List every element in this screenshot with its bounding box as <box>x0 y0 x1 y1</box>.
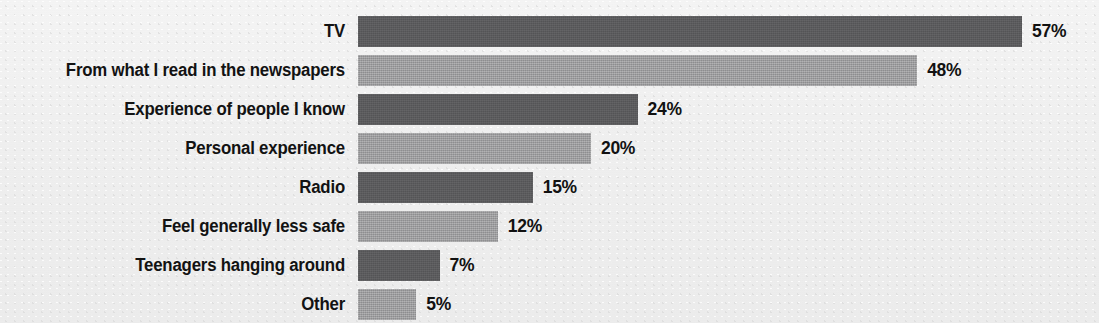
bar-value-label: 20% <box>601 133 635 164</box>
category-label: Radio <box>14 172 345 203</box>
bar <box>358 172 533 203</box>
bar-value-label: 24% <box>648 94 682 125</box>
bar <box>358 289 416 320</box>
category-label: Feel generally less safe <box>14 211 345 242</box>
bar <box>358 250 440 281</box>
chart-row: Other5% <box>0 289 1099 320</box>
chart-row: Experience of people I know24% <box>0 94 1099 125</box>
chart-row: TV57% <box>0 16 1099 47</box>
chart-row: Personal experience20% <box>0 133 1099 164</box>
chart-plot-area: TV57%From what I read in the newspapers4… <box>0 0 1099 323</box>
chart-row: Teenagers hanging around7% <box>0 250 1099 281</box>
chart-row: From what I read in the newspapers48% <box>0 55 1099 86</box>
category-label: Personal experience <box>14 133 345 164</box>
bar-value-label: 15% <box>543 172 577 203</box>
chart-row: Feel generally less safe12% <box>0 211 1099 242</box>
bar-value-label: 7% <box>450 250 475 281</box>
category-label: Other <box>14 289 345 320</box>
chart-row: Radio15% <box>0 172 1099 203</box>
bar-chart: TV57%From what I read in the newspapers4… <box>0 0 1099 323</box>
bar <box>358 94 638 125</box>
category-label: From what I read in the newspapers <box>14 55 345 86</box>
bar-value-label: 57% <box>1032 16 1066 47</box>
bar-value-label: 5% <box>426 289 451 320</box>
bar-value-label: 12% <box>508 211 542 242</box>
category-label: Experience of people I know <box>14 94 345 125</box>
bar-value-label: 48% <box>927 55 961 86</box>
bar <box>358 211 498 242</box>
bar <box>358 55 917 86</box>
bar <box>358 133 591 164</box>
bar <box>358 16 1022 47</box>
category-label: Teenagers hanging around <box>14 250 345 281</box>
category-label: TV <box>14 16 345 47</box>
